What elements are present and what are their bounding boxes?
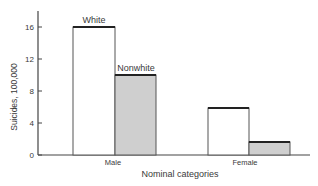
y-tick-label: 12 — [25, 55, 34, 64]
bar-male-white — [73, 27, 115, 155]
annotation-nonwhite: Nonwhite — [117, 63, 155, 73]
y-ticks: 0 4 8 12 16 — [25, 23, 42, 160]
y-tick-label: 8 — [30, 87, 35, 96]
annotation-white: White — [82, 15, 105, 25]
y-tick-label: 4 — [30, 119, 35, 128]
bar-female-nonwhite — [249, 142, 290, 155]
bar-male-nonwhite — [115, 75, 156, 155]
x-axis-label: Nominal categories — [141, 169, 219, 179]
category-label-male: Male — [105, 158, 121, 167]
category-label-female: Female — [232, 158, 257, 167]
y-axis-label: Suicides, 100,000 — [9, 63, 19, 131]
bar-female-white — [208, 108, 249, 155]
y-tick-label: 16 — [25, 23, 34, 32]
y-tick-label: 0 — [30, 151, 35, 160]
bar-chart: 0 4 8 12 16 Suicides, 100,000 White Nonw… — [0, 0, 318, 186]
